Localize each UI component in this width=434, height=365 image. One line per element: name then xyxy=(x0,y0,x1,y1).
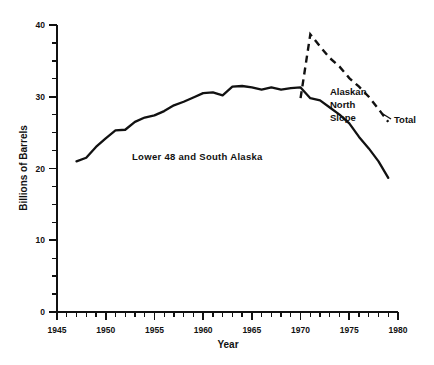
x-tick-label: 1945 xyxy=(48,325,67,335)
x-tick-label: 1965 xyxy=(242,325,261,335)
annotation-alaskan-north-slope: AlaskanNorthSlope xyxy=(330,86,367,123)
y-tick-label: 10 xyxy=(36,235,46,245)
x-axis-tick-labels: 19451950195519601965197019751980 xyxy=(48,325,408,335)
chart-container: 19451950195519601965197019751980 0102030… xyxy=(0,0,434,365)
x-tick-label: 1950 xyxy=(96,325,115,335)
annotation-line: Slope xyxy=(330,112,356,123)
annotation-line: North xyxy=(330,99,356,110)
total-pointer-icon xyxy=(383,114,391,119)
axis-spine xyxy=(57,25,398,312)
y-tick-label: 40 xyxy=(36,20,46,30)
y-tick-label: 20 xyxy=(36,164,46,174)
annotation-lower-48-and-south-alaska: Lower 48 and South Alaska xyxy=(132,151,263,162)
y-axis-ticks xyxy=(49,25,57,312)
y-axis-tick-labels: 010203040 xyxy=(36,20,46,317)
axes xyxy=(57,25,398,312)
annotation-total: Total xyxy=(394,114,416,125)
y-tick-label: 0 xyxy=(40,307,45,317)
x-axis-title: Year xyxy=(217,339,238,350)
y-axis-title: Billions of Barrels xyxy=(18,125,29,211)
x-tick-label: 1975 xyxy=(340,325,359,335)
annotation-line: Alaskan xyxy=(330,86,367,97)
series-annotations: Lower 48 and South AlaskaAlaskanNorthSlo… xyxy=(132,86,416,162)
y-tick-label: 30 xyxy=(36,92,46,102)
x-tick-label: 1970 xyxy=(291,325,310,335)
x-axis-ticks xyxy=(57,312,398,320)
oil-reserves-line-chart: 19451950195519601965197019751980 0102030… xyxy=(0,0,434,365)
x-tick-label: 1980 xyxy=(389,325,408,335)
x-tick-label: 1955 xyxy=(145,325,164,335)
x-tick-label: 1960 xyxy=(194,325,213,335)
